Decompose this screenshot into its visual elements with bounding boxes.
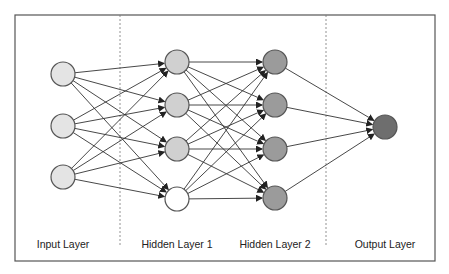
connection-edge: [184, 72, 267, 188]
neuron-layer2-2: [263, 137, 287, 161]
neural-network-diagram: [0, 0, 449, 274]
label-hidden-layer-2: Hidden Layer 2: [239, 238, 310, 250]
connection-edge: [287, 130, 372, 147]
connection-edge: [75, 77, 165, 101]
diagram-frame: [15, 15, 435, 261]
neuron-layer2-0: [263, 50, 287, 74]
connection-edge: [285, 134, 374, 191]
neuron-layer0-0: [51, 62, 75, 86]
connection-edge: [75, 63, 164, 72]
connection-edge: [186, 113, 266, 189]
bias-neuron-layer1-3: [165, 187, 189, 211]
connection-edge: [73, 68, 165, 120]
neuron-layer0-1: [51, 114, 75, 138]
neuron-layer3-0: [373, 115, 397, 139]
connection-edge: [186, 114, 266, 191]
neuron-layer2-3: [263, 186, 287, 210]
connection-edge: [188, 154, 264, 192]
neuron-layer1-1: [165, 93, 189, 117]
connections: [71, 62, 374, 199]
connection-edge: [287, 107, 372, 124]
connection-edge: [285, 68, 373, 120]
label-output-layer: Output Layer: [355, 238, 416, 250]
label-input-layer: Input Layer: [37, 238, 90, 250]
neuron-layer2-1: [263, 93, 287, 117]
connection-edge: [75, 128, 164, 146]
layer-dividers: [120, 15, 326, 247]
neuron-layer0-2: [51, 165, 75, 189]
connection-edge: [188, 155, 264, 194]
neuron-layer1-2: [165, 137, 189, 161]
neurons: [51, 50, 397, 211]
neuron-layer1-0: [165, 50, 189, 74]
label-hidden-layer-1: Hidden Layer 1: [141, 238, 212, 250]
connection-edge: [189, 198, 262, 199]
